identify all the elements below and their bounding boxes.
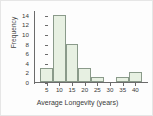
plot-area (34, 11, 148, 83)
x-tick-label: 25 (94, 86, 101, 93)
y-tick-label: 6 (26, 51, 29, 57)
histogram-bar (116, 77, 129, 82)
x-tick-label: 15 (69, 86, 76, 93)
histogram-bar (91, 77, 104, 82)
x-tick-label: 20 (81, 86, 88, 93)
histogram-bar (66, 44, 79, 82)
y-tick-label: 4 (26, 61, 29, 67)
histogram-figure: Frequency 02468101214 510152025303540 Av… (0, 0, 153, 116)
x-tick-label: 40 (132, 86, 139, 93)
x-tick-label: 30 (107, 86, 114, 93)
y-tick-label: 2 (26, 70, 29, 76)
y-axis-tick-labels: 02468101214 (15, 11, 29, 83)
x-tick-label: 5 (45, 86, 48, 93)
histogram-bar (40, 68, 53, 82)
y-tick-label: 10 (22, 32, 29, 38)
x-axis-title: Average Longevity (years) (1, 99, 153, 106)
histogram-bar (53, 15, 66, 82)
x-tick-label: 10 (56, 86, 63, 93)
y-tick-label: 12 (22, 22, 29, 28)
y-tick-label: 14 (22, 13, 29, 19)
histogram-bar (129, 72, 142, 82)
y-axis-line (34, 11, 35, 84)
histogram-bar (78, 68, 91, 82)
y-tick-label: 0 (26, 80, 29, 86)
y-tick-label: 8 (26, 41, 29, 47)
x-tick-label: 35 (119, 86, 126, 93)
x-axis-tick-labels: 510152025303540 (34, 83, 148, 95)
